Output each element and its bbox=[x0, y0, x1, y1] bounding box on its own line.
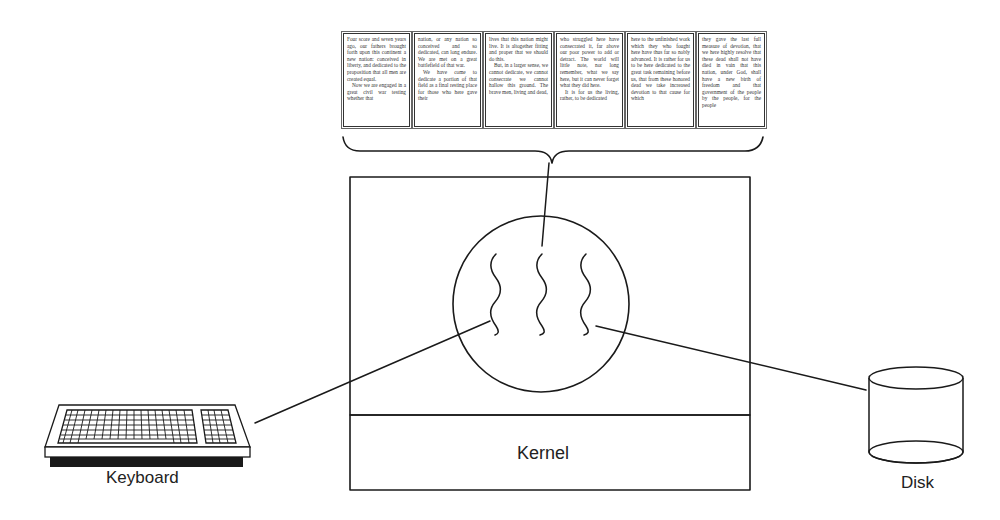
thread-squiggle-icon bbox=[491, 254, 501, 335]
address-space-circle bbox=[453, 216, 629, 392]
brace-to-thread-line bbox=[542, 163, 549, 246]
thread-squiggle-icon bbox=[537, 254, 547, 335]
disk-label: Disk bbox=[901, 473, 934, 493]
disk-cylinder-icon bbox=[869, 367, 963, 463]
thread-to-disk-line bbox=[596, 326, 866, 390]
keyboard-icon bbox=[45, 405, 250, 467]
curly-brace bbox=[343, 137, 763, 163]
thread-squiggle-icon bbox=[581, 254, 591, 335]
keyboard-label: Keyboard bbox=[106, 468, 179, 488]
diagram-canvas bbox=[0, 0, 1000, 520]
kernel-label: Kernel bbox=[517, 443, 569, 464]
thread-to-keyboard-line bbox=[255, 321, 490, 423]
process-box bbox=[350, 177, 750, 415]
